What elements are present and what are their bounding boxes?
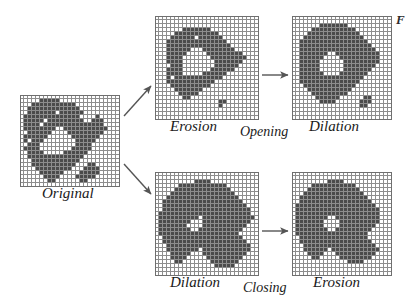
label-erosion-bottom: Erosion <box>313 274 360 291</box>
panel-dilation_bottom <box>155 172 259 276</box>
pixel-off <box>388 272 392 276</box>
pixel-grid-original <box>20 95 120 187</box>
pixel-grid-dilation_top <box>292 16 392 120</box>
pixel-grid-erosion_top <box>155 16 259 120</box>
panel-dilation_top <box>292 16 392 120</box>
label-original: Original <box>42 185 94 202</box>
label-erosion-top: Erosion <box>170 118 217 135</box>
panel-original <box>20 95 120 187</box>
pixel-off <box>255 272 259 276</box>
pixel-off <box>116 183 120 187</box>
label-dilation-top: Dilation <box>309 118 359 135</box>
pixel-grid-erosion_bottom <box>292 172 392 276</box>
label-opening: Opening <box>240 124 288 140</box>
corner-mark: F <box>396 12 405 28</box>
label-dilation-bottom: Dilation <box>170 274 220 291</box>
label-closing: Closing <box>243 280 287 296</box>
pixel-grid-dilation_bottom <box>155 172 259 276</box>
panel-erosion_bottom <box>292 172 392 276</box>
panel-erosion_top <box>155 16 259 120</box>
pixel-off <box>388 116 392 120</box>
pixel-off <box>255 116 259 120</box>
